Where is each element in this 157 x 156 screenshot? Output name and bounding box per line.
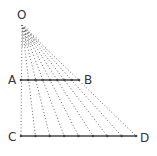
label-c: C [8, 130, 16, 144]
label-b: B [84, 73, 92, 87]
division-tick [34, 79, 37, 82]
label-o: O [17, 8, 26, 22]
division-tick [135, 135, 138, 138]
division-tick [27, 79, 30, 82]
division-tick [34, 135, 37, 138]
division-tick [20, 79, 23, 82]
division-tick [92, 135, 95, 138]
ray-arcs-near-origin [22, 26, 39, 46]
division-tick [78, 79, 81, 82]
division-tick [63, 135, 66, 138]
division-tick [56, 79, 59, 82]
label-d: D [140, 131, 149, 145]
division-tick [106, 135, 109, 138]
division-tick [20, 135, 23, 138]
label-a: A [8, 73, 17, 87]
division-tick [48, 135, 51, 138]
division-tick [49, 79, 52, 82]
division-tick [70, 79, 73, 82]
projection-diagram: O A B C D [0, 0, 157, 156]
division-tick [63, 79, 66, 82]
division-tick [120, 135, 123, 138]
division-tick [41, 79, 44, 82]
division-tick [77, 135, 80, 138]
